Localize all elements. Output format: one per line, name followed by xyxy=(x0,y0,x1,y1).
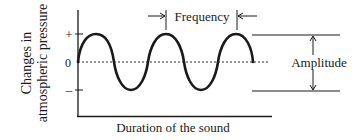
tick-label-zero: 0 xyxy=(65,56,71,70)
y-axis-label-line1: Changes in xyxy=(19,32,34,95)
frequency-label: Frequency xyxy=(175,9,230,24)
x-axis-label: Duration of the sound xyxy=(116,120,230,135)
sound-wave-diagram: Changes in atmospheric pressure + 0 – Fr… xyxy=(0,0,358,140)
tick-label-plus: + xyxy=(65,27,72,42)
y-axis-label-line2: atmospheric pressure xyxy=(35,4,50,123)
amplitude-label: Amplitude xyxy=(291,55,347,70)
tick-label-minus: – xyxy=(65,82,73,97)
